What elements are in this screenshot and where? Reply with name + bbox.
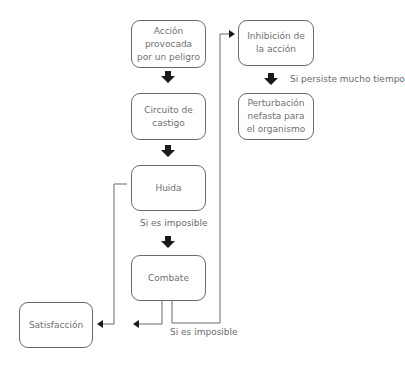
node-accion: Acción provocada por un peligro [131, 20, 206, 68]
arrow-huida-to-combate [161, 236, 175, 248]
node-combate: Combate [131, 255, 206, 301]
label-huida-imposible: Si es imposible [140, 218, 208, 228]
node-perturbacion-text: Perturbación nefasta para el organismo [243, 97, 309, 136]
node-perturbacion: Perturbación nefasta para el organismo [238, 93, 314, 140]
arrow-accion-to-circuito [161, 71, 175, 83]
line-combate-left [139, 301, 162, 324]
label-combate-imposible: Si es imposible [170, 327, 238, 337]
arrow-circuito-to-huida [161, 145, 175, 157]
arrowhead-combate-left [133, 320, 139, 328]
arrowhead-inhibicion [229, 30, 235, 38]
node-combate-text: Combate [148, 272, 189, 285]
arrow-inhibicion-to-perturbacion [264, 73, 278, 85]
node-satisfaccion-text: Satisfacción [29, 319, 83, 332]
node-accion-text: Acción provocada por un peligro [136, 25, 201, 64]
label-persiste: Si persiste mucho tiempo [290, 74, 405, 84]
arrowhead-satisfaccion [97, 320, 103, 328]
node-inhibicion-text: Inhibición de la acción [244, 30, 308, 56]
node-circuito-text: Circuito de castigo [144, 104, 194, 130]
node-circuito: Circuito de castigo [131, 93, 206, 140]
line-huida-to-satisfaccion [102, 184, 127, 324]
node-huida: Huida [131, 165, 206, 211]
node-satisfaccion: Satisfacción [19, 302, 93, 348]
node-huida-text: Huida [155, 182, 181, 195]
node-inhibicion: Inhibición de la acción [238, 20, 314, 66]
